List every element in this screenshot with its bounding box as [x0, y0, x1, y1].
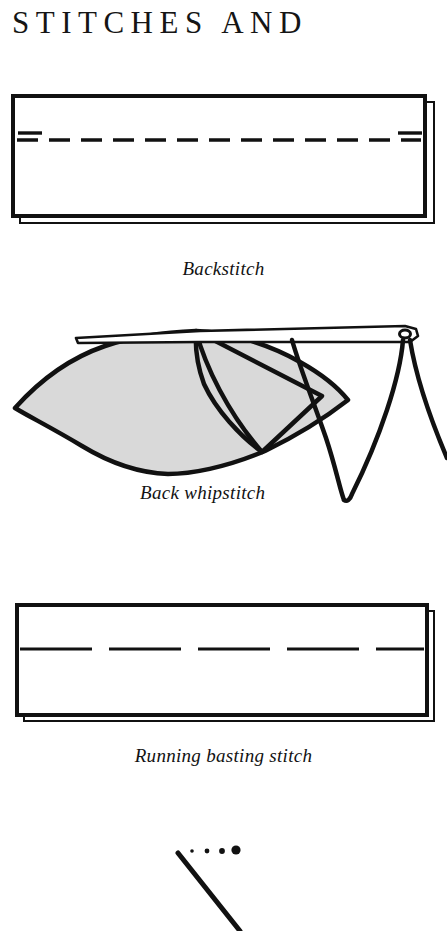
dot-1: [190, 849, 194, 853]
caption-running-basting-stitch: Running basting stitch: [0, 745, 447, 767]
thread-strand-left: [344, 340, 403, 501]
fabric-panel: [13, 96, 425, 216]
diagonal-stroke: [178, 853, 240, 931]
dot-2: [205, 849, 210, 854]
thread-strand-right: [410, 340, 447, 458]
dot-3: [219, 848, 225, 854]
partial-diagram-illustration: [0, 826, 447, 931]
fabric-panel: [17, 605, 427, 715]
figure-backstitch-canvas: [0, 92, 447, 232]
page-title: STITCHES AND: [12, 2, 447, 44]
caption-backstitch: Backstitch: [0, 258, 447, 280]
figure-partial-next-diagram: [0, 826, 447, 931]
figure-running-basting-canvas: [0, 597, 447, 732]
caption-back-whipstitch: Back whipstitch: [0, 482, 447, 504]
figure-partial-canvas: [0, 826, 447, 931]
needle: [76, 326, 418, 343]
running-basting-illustration: [0, 597, 447, 732]
dot-4: [231, 845, 240, 854]
figure-running-basting-stitch: [0, 597, 447, 732]
backstitch-illustration: [0, 92, 447, 232]
needle-eye: [400, 330, 411, 338]
